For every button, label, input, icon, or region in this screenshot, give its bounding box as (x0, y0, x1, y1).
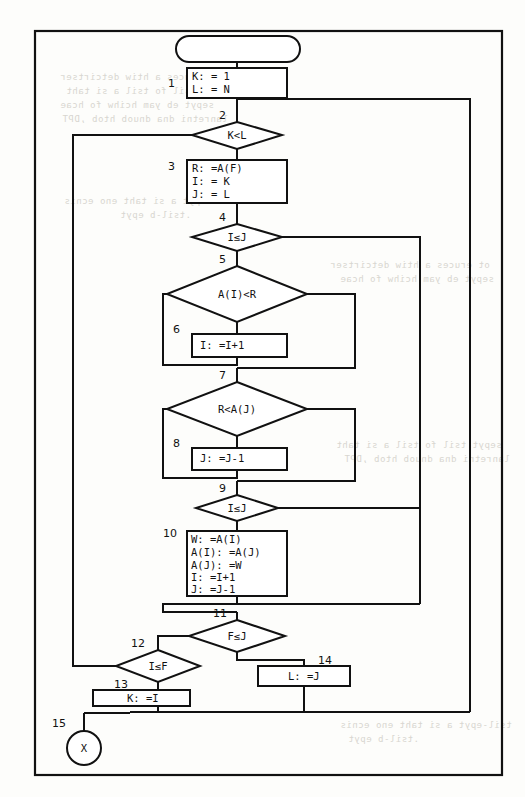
node-1-line-1: K: = 1 (192, 70, 230, 82)
node-7-decision[interactable]: R<A(J) (167, 382, 307, 436)
node-10-number: 10 (163, 527, 177, 540)
node-7-label: R<A(J) (218, 403, 256, 415)
node-10-line-5: J: =J-1 (191, 583, 235, 595)
node-13-process[interactable]: K: =I (93, 690, 190, 706)
node-11-decision[interactable]: F≤J (189, 620, 285, 652)
node-13-label: K: =I (127, 692, 159, 704)
start-terminal[interactable] (176, 36, 300, 62)
node-14-process[interactable]: L: =J (258, 666, 350, 686)
node-14-number: 14 (318, 654, 332, 667)
node-9-decision[interactable]: I≤J (196, 495, 278, 521)
node-8-process[interactable]: J: =J-1 (192, 448, 287, 470)
node-4-label: I≤J (228, 231, 247, 243)
node-12-label: I≤F (149, 660, 168, 672)
node-2-label: K<L (228, 129, 247, 141)
node-1-line-2: L: = N (192, 83, 230, 95)
node-2-number: 2 (219, 109, 226, 122)
node-10-line-3: A(J): =W (191, 559, 242, 571)
node-5-decision[interactable]: A(I)<R (167, 266, 307, 322)
node-15-connector[interactable]: X (67, 731, 101, 765)
node-13-number: 13 (114, 678, 128, 691)
node-12-number: 12 (131, 637, 145, 650)
node-1-process[interactable]: K: = 1 L: = N (187, 68, 287, 98)
node-10-line-4: I: =I+1 (191, 571, 235, 583)
node-3-line-3: J: = L (192, 188, 230, 200)
node-7-number: 7 (219, 369, 226, 382)
node-9-label: I≤J (228, 502, 247, 514)
page-background: ot eruces a htiw detcirtser sepyt tsil f… (0, 0, 525, 797)
flowchart-diagram: K: = 1 L: = N 1 K<L 2 R: =A(F) I: = K J:… (0, 0, 525, 797)
node-2-decision[interactable]: K<L (192, 122, 282, 149)
node-8-label: J: =J-1 (200, 452, 244, 464)
node-6-process[interactable]: I: =I+1 (192, 334, 287, 357)
node-15-number: 15 (52, 717, 66, 730)
node-3-line-2: I: = K (192, 175, 231, 187)
node-10-process[interactable]: W: =A(I) A(I): =A(J) A(J): =W I: =I+1 J:… (187, 531, 287, 596)
node-5-number: 5 (219, 253, 226, 266)
node-12-decision[interactable]: I≤F (116, 650, 200, 682)
node-14-label: L: =J (288, 670, 320, 682)
node-11-label: F≤J (228, 630, 247, 642)
node-9-number: 9 (219, 482, 226, 495)
node-3-line-1: R: =A(F) (192, 162, 243, 174)
node-11-number: 11 (213, 607, 227, 620)
node-5-label: A(I)<R (218, 288, 257, 300)
node-6-number: 6 (173, 323, 180, 336)
node-4-number: 4 (219, 211, 226, 224)
node-10-line-2: A(I): =A(J) (191, 546, 261, 558)
node-8-number: 8 (173, 437, 180, 450)
node-10-line-1: W: =A(I) (191, 533, 242, 545)
node-3-process[interactable]: R: =A(F) I: = K J: = L (187, 160, 287, 203)
node-1-number: 1 (168, 77, 175, 90)
node-4-decision[interactable]: I≤J (192, 224, 282, 251)
node-6-label: I: =I+1 (200, 339, 244, 351)
node-3-number: 3 (168, 160, 175, 173)
node-15-label: X (81, 742, 88, 754)
